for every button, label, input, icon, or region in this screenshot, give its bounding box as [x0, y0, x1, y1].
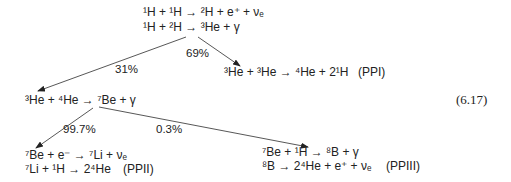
branch-label-31: 31% [115, 62, 138, 76]
reaction-deuterium-capture: ¹H + ²H → ³He + γ [143, 20, 240, 34]
reaction-ppii-lithium: ⁷Li + ¹H → 2⁴He [25, 162, 111, 176]
arrow-0-3-percent [99, 107, 308, 147]
equation-number: (6.17) [456, 93, 487, 107]
branch-label-0-3: 0.3% [156, 122, 182, 136]
label-ppiii: (PPIII) [386, 159, 420, 173]
reaction-ppi: ³He + ³He → ⁴He + 2¹H [224, 65, 349, 79]
reaction-he3-he4: ³He + ⁴He → ⁷Be + γ [25, 93, 136, 107]
arrow-31-percent [38, 37, 186, 91]
reaction-pp-fusion: ¹H + ¹H → ²H + e⁺ + νₑ [143, 5, 264, 19]
branch-label-99-7: 99.7% [63, 122, 96, 136]
branch-label-69: 69% [186, 46, 209, 60]
label-ppii: (PPII) [123, 162, 154, 176]
reaction-ppiii-decay: ⁸B → 2⁴He + e⁺ + νₑ [262, 159, 371, 173]
reaction-ppii-electron-capture: ⁷Be + e⁻ → ⁷Li + νₑ [25, 148, 127, 162]
reaction-ppiii-boron: ⁷Be + ¹H → ⁸B + γ [262, 145, 359, 159]
label-ppi: (PPI) [358, 65, 385, 79]
